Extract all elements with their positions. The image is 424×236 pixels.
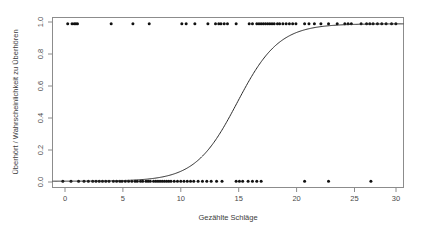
data-point	[369, 180, 372, 183]
data-point	[223, 22, 226, 25]
x-tick-label: 10	[177, 194, 185, 203]
data-point	[185, 22, 188, 25]
data-point	[281, 22, 284, 25]
data-point	[303, 22, 306, 25]
x-tick-label: 5	[121, 194, 125, 203]
data-point	[201, 180, 204, 183]
logistic-regression-figure: 0.0 0.2 0.4 0.6 0.8 1.0 0 5 10 15 20 25 …	[0, 0, 424, 236]
y-axis-title: Überhört / Wahrscheinlichkeit zu Überhör…	[11, 29, 20, 174]
data-point	[193, 22, 196, 25]
x-axis-title: Gezählte Schläge	[198, 213, 257, 222]
y-tick-label: 0.0	[36, 177, 45, 187]
data-point	[294, 22, 297, 25]
data-point	[319, 22, 322, 25]
data-point	[186, 180, 189, 183]
data-point	[226, 22, 229, 25]
data-point	[241, 180, 244, 183]
data-point	[260, 180, 263, 183]
data-point	[307, 22, 310, 25]
data-point	[110, 22, 113, 25]
data-point	[278, 22, 281, 25]
data-point	[141, 180, 144, 183]
data-point	[313, 22, 316, 25]
data-point	[247, 180, 250, 183]
data-point	[180, 22, 183, 25]
data-point	[192, 180, 195, 183]
x-tick-label: 0	[63, 194, 67, 203]
x-tick-label: 30	[392, 194, 400, 203]
data-point	[66, 22, 69, 25]
data-point	[251, 22, 254, 25]
x-tick-label: 15	[235, 194, 243, 203]
data-point	[182, 180, 185, 183]
data-point	[327, 22, 330, 25]
data-point	[291, 22, 294, 25]
data-point	[219, 22, 222, 25]
data-point	[173, 180, 176, 183]
x-tick-label: 25	[350, 194, 358, 203]
data-point	[169, 180, 172, 183]
plot-canvas: 0.0 0.2 0.4 0.6 0.8 1.0 0 5 10 15 20 25 …	[0, 0, 424, 236]
data-point	[179, 180, 182, 183]
y-tick-label: 0.2	[36, 145, 45, 155]
y-tick-label: 0.4	[36, 113, 45, 123]
data-point	[255, 180, 258, 183]
data-point	[197, 180, 200, 183]
data-point	[148, 22, 151, 25]
data-point	[238, 180, 241, 183]
y-tick-label: 0.6	[36, 81, 45, 91]
y-tick-label: 1.0	[36, 17, 45, 27]
data-point	[76, 22, 79, 25]
y-tick-label: 0.8	[36, 49, 45, 59]
data-point	[131, 22, 134, 25]
data-point	[215, 180, 218, 183]
data-point	[235, 180, 238, 183]
data-point	[221, 180, 224, 183]
data-point	[273, 22, 276, 25]
data-point	[176, 180, 179, 183]
data-point	[288, 22, 291, 25]
data-point	[303, 180, 306, 183]
data-point	[235, 22, 238, 25]
data-point	[285, 22, 288, 25]
data-point	[149, 180, 152, 183]
data-point	[210, 180, 213, 183]
data-point	[205, 180, 208, 183]
x-tick-label: 20	[292, 194, 300, 203]
data-point	[189, 180, 192, 183]
data-point	[214, 22, 217, 25]
data-point	[327, 180, 330, 183]
data-point	[248, 22, 251, 25]
data-point	[251, 180, 254, 183]
data-point	[206, 22, 209, 25]
